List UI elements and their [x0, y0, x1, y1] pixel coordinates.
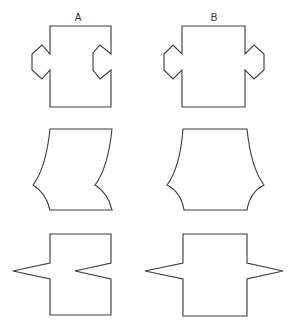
column-label-a: A — [75, 12, 82, 23]
shape-comparison-diagram: A B — [0, 0, 295, 329]
shape-a-row1-hex-tab — [32, 26, 111, 107]
shape-a-row2-curved — [33, 129, 112, 210]
column-label-b: B — [211, 12, 218, 23]
shape-b-row1-hex-tabs — [164, 26, 264, 107]
shape-b-row3-spikes — [145, 234, 283, 316]
shape-a-row3-spike — [13, 234, 111, 315]
shape-b-row2-curved — [167, 129, 264, 210]
